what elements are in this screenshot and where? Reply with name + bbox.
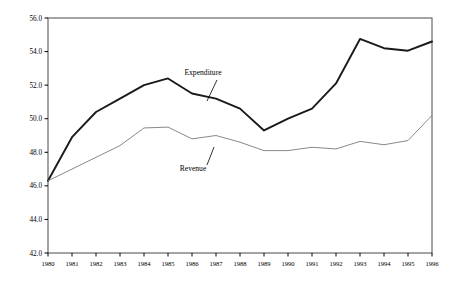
- y-tick-label: 48.0: [29, 149, 42, 157]
- y-tick-label: 46.0: [29, 182, 42, 190]
- y-tick-label: 50.0: [29, 115, 42, 123]
- x-tick-label: 1989: [257, 260, 271, 267]
- x-tick-label: 1988: [233, 260, 247, 267]
- series-label-revenue: Revenue: [180, 164, 207, 173]
- plot-background: [0, 0, 449, 283]
- y-tick-label: 56.0: [29, 15, 42, 23]
- y-tick-label: 52.0: [29, 82, 42, 90]
- x-tick-label: 1987: [209, 260, 223, 267]
- x-tick-label: 1990: [281, 260, 295, 267]
- x-tick-label: 1981: [65, 260, 78, 267]
- x-tick-label: 1996: [425, 260, 439, 267]
- x-tick-label: 1993: [353, 260, 367, 267]
- x-tick-label: 1986: [185, 260, 199, 267]
- x-tick-label: 1984: [137, 260, 151, 267]
- series-label-expenditure: Expenditure: [184, 68, 222, 77]
- x-tick-label: 1982: [89, 260, 102, 267]
- x-tick-label: 1991: [305, 260, 318, 267]
- y-tick-label: 54.0: [29, 48, 42, 56]
- x-tick-label: 1985: [161, 260, 175, 267]
- chart-container: 56.054.052.050.048.046.044.042.0 1980198…: [0, 0, 449, 283]
- x-tick-label: 1983: [113, 260, 127, 267]
- x-tick-label: 1980: [41, 260, 55, 267]
- y-tick-label: 44.0: [29, 216, 42, 224]
- x-tick-label: 1994: [377, 260, 391, 267]
- line-chart: 56.054.052.050.048.046.044.042.0 1980198…: [0, 0, 449, 283]
- x-tick-label: 1992: [329, 260, 342, 267]
- x-tick-label: 1995: [401, 260, 415, 267]
- y-tick-label: 42.0: [29, 250, 42, 258]
